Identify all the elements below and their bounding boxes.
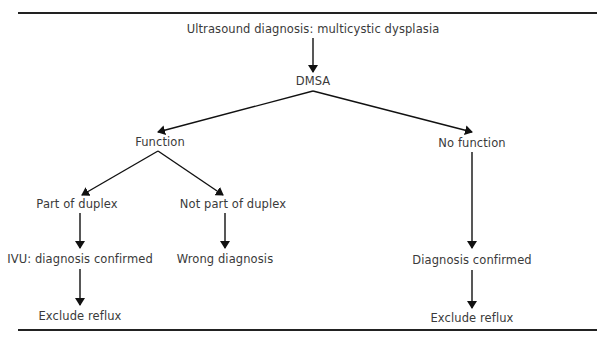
node-exclude-reflux-left: Exclude reflux	[39, 309, 122, 323]
node-no-function: No function	[438, 136, 505, 150]
node-exclude-reflux-right: Exclude reflux	[431, 311, 514, 325]
arrow-dmsa-to-no-function	[313, 91, 472, 132]
node-ivu-confirmed: IVU: diagnosis confirmed	[7, 252, 153, 266]
arrow-dmsa-to-function	[158, 91, 313, 132]
node-root: Ultrasound diagnosis: multicystic dyspla…	[187, 22, 440, 36]
node-not-part-of-duplex: Not part of duplex	[180, 197, 286, 211]
flow-arrows	[0, 0, 597, 347]
arrow-function-to-part	[82, 151, 158, 195]
node-dmsa: DMSA	[296, 74, 331, 88]
node-wrong-diagnosis: Wrong diagnosis	[177, 252, 273, 266]
arrow-function-to-not-part	[158, 151, 223, 195]
node-part-of-duplex: Part of duplex	[36, 197, 117, 211]
node-function: Function	[135, 135, 185, 149]
node-diagnosis-confirmed: Diagnosis confirmed	[412, 253, 531, 267]
